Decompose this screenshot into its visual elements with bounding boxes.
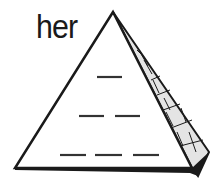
word-pyramid — [0, 0, 211, 187]
